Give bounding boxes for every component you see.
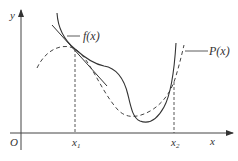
y-axis-label: y <box>9 9 15 21</box>
origin-label: O <box>10 136 18 148</box>
x2-label: x2 <box>170 136 180 150</box>
f-label: f(x) <box>83 29 100 43</box>
x-axis-label: x <box>209 135 215 147</box>
p-label: P(x) <box>208 44 230 58</box>
x1-label: x1 <box>71 136 80 150</box>
diagram: f(x) P(x) y x O x1 x2 <box>0 0 238 161</box>
p-curve <box>37 45 184 116</box>
